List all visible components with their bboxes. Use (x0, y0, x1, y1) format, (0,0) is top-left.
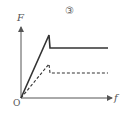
force-graph: ③ F f O (0, 0, 121, 116)
y-axis-label: F (17, 13, 24, 23)
origin-label: O (13, 99, 20, 108)
solid-curve (21, 35, 108, 98)
x-axis-label: f (114, 93, 118, 103)
figure-number: ③ (65, 6, 74, 16)
